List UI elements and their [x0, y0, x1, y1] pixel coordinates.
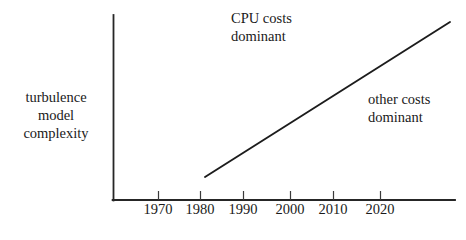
text-layer: turbulence model complexity CPU costs do… [0, 0, 466, 240]
x-tick-label-1990: 1990 [220, 200, 266, 218]
x-tick-label-2010: 2010 [310, 200, 356, 218]
y-axis-label-line-2: model [10, 106, 102, 124]
y-axis-label-line-1: turbulence [10, 88, 102, 106]
y-axis-label-line-3: complexity [10, 124, 102, 142]
x-tick-label-2020: 2020 [357, 200, 403, 218]
y-axis-label: turbulence model complexity [10, 88, 102, 142]
annotation-cpu-line-2: dominant [231, 27, 292, 45]
annotation-other-costs-dominant: other costs dominant [368, 90, 430, 126]
x-tick-label-1970: 1970 [135, 200, 181, 218]
annotation-cpu-costs-dominant: CPU costs dominant [231, 9, 292, 45]
annotation-other-line-1: other costs [368, 90, 430, 108]
annotation-other-line-2: dominant [368, 108, 430, 126]
x-tick-label-2000: 2000 [267, 200, 313, 218]
annotation-cpu-line-1: CPU costs [231, 9, 292, 27]
x-tick-label-1980: 1980 [177, 200, 223, 218]
turbulence-model-complexity-figure: turbulence model complexity CPU costs do… [0, 0, 466, 240]
